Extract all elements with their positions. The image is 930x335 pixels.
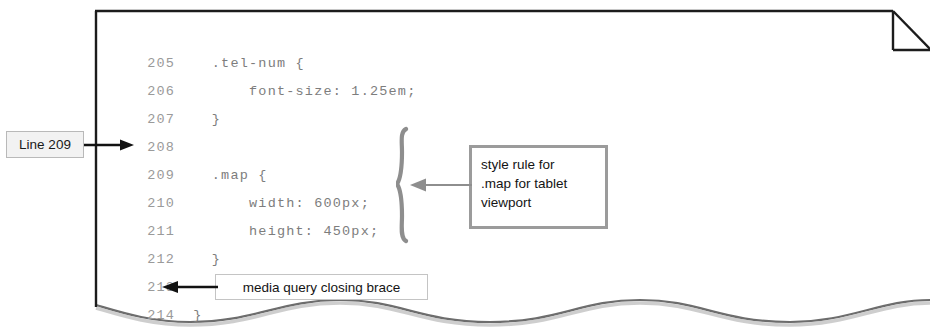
line-number: 209 (147, 162, 193, 190)
closing-brace-note-label: media query closing brace (243, 280, 401, 295)
style-rule-note-line: style rule for (481, 155, 605, 174)
line-source: width: 600px; (193, 196, 370, 211)
line-number: 210 (147, 190, 193, 218)
line-209-arrow-icon (84, 136, 134, 154)
line-number: 208 (147, 134, 193, 162)
code-line: 205 .tel-num { (110, 22, 440, 50)
line-number: 211 (147, 218, 193, 246)
style-rule-note-line: .map for tablet (481, 174, 605, 193)
line-209-callout: Line 209 (6, 131, 84, 158)
line-source: height: 450px; (193, 224, 379, 239)
style-rule-note: style rule for .map for tablet viewport (469, 145, 608, 229)
line-source: .map { (193, 168, 267, 183)
line-number: 205 (147, 50, 193, 78)
style-rule-note-line: viewport (481, 193, 605, 212)
code-listing: 205 .tel-num { 206 font-size: 1.25em; 20… (110, 22, 440, 302)
style-rule-note-arrow-icon (410, 176, 472, 194)
line-number: 207 (147, 106, 193, 134)
line-source: } (193, 252, 221, 267)
line-number: 206 (147, 78, 193, 106)
line-209-callout-label: Line 209 (19, 137, 71, 152)
closing-brace-arrow-icon (162, 278, 218, 296)
line-number: 214 (147, 302, 193, 330)
closing-brace-note: media query closing brace (215, 274, 428, 300)
line-source: } (193, 308, 202, 323)
line-source: .tel-num { (193, 56, 305, 71)
line-source: } (193, 112, 221, 127)
line-number: 212 (147, 246, 193, 274)
line-source: font-size: 1.25em; (193, 84, 416, 99)
brace-glyph (397, 129, 406, 241)
